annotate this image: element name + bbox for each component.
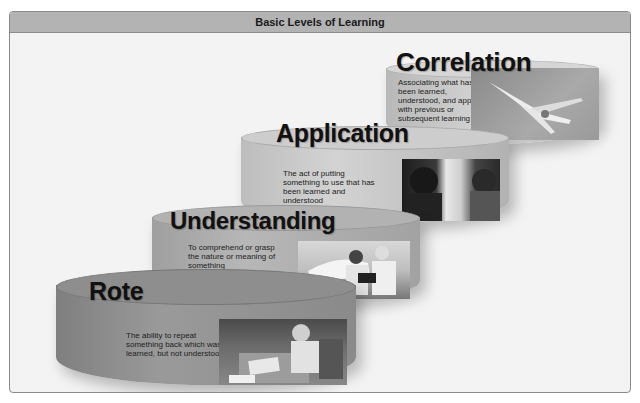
student-studying-icon bbox=[219, 319, 347, 385]
level-title-rote: Rote bbox=[89, 277, 143, 306]
level-description: To comprehend or grasp the nature or mea… bbox=[188, 243, 278, 270]
diagram-title: Basic Levels of Learning bbox=[10, 12, 630, 33]
diagram-frame: Basic Levels of Learning Associating wha… bbox=[9, 11, 631, 393]
level-title-correlation: Correlation bbox=[396, 47, 531, 78]
level-title-understanding: Understanding bbox=[170, 207, 335, 235]
student-studying-photo bbox=[219, 319, 347, 385]
levels-canvas: Associating what has been learned, under… bbox=[10, 33, 630, 392]
level-title-application: Application bbox=[276, 119, 409, 148]
level-description: The ability to repeat something back whi… bbox=[126, 331, 231, 358]
level-description: The act of putting something to use that… bbox=[283, 169, 375, 205]
